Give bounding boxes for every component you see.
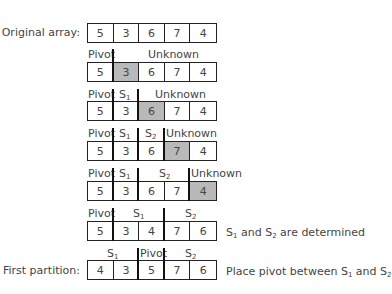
array-row-step-4: 5 3 6 7 4 — [87, 181, 217, 201]
region-label-s2: S2 — [145, 127, 156, 141]
array-cell: 5 — [88, 182, 114, 200]
array-cell: 4 — [190, 102, 216, 120]
array-cell: 7 — [165, 222, 191, 240]
array-cell: 5 — [88, 24, 114, 42]
array-row-step-3: 5 3 6 7 4 — [87, 141, 217, 161]
region-label-s1: S1 — [133, 207, 144, 221]
region-separator — [188, 168, 190, 201]
region-label-pivot: Pivot — [88, 127, 115, 140]
array-cell-current: 4 — [190, 182, 216, 200]
array-cell: 4 — [139, 222, 165, 240]
array-cell-current: 3 — [114, 63, 140, 81]
region-label-s1: S1 — [107, 247, 118, 261]
region-label-pivot: Pivot — [88, 167, 115, 180]
array-cell: 3 — [114, 182, 140, 200]
step-note-determined: S1 and S2 are determined — [226, 226, 365, 240]
region-label-unknown: Unknown — [148, 48, 199, 61]
region-separator — [163, 128, 165, 161]
region-separator — [137, 89, 139, 121]
region-label-s2: S2 — [185, 247, 196, 261]
region-label-pivot: Pivot — [88, 207, 115, 220]
array-cell: 3 — [114, 222, 140, 240]
array-cell: 7 — [165, 102, 191, 120]
region-separator — [163, 248, 165, 280]
array-row-step-5: 5 3 4 7 6 — [87, 221, 217, 241]
array-cell: 5 — [88, 142, 114, 160]
region-separator — [112, 208, 114, 241]
array-row-original: 5 3 6 7 4 — [87, 23, 217, 43]
original-array-label: Original array: — [0, 26, 80, 39]
region-label-s1: S1 — [119, 88, 130, 102]
array-cell: 6 — [139, 63, 165, 81]
region-separator — [112, 128, 114, 161]
array-cell: 7 — [165, 24, 191, 42]
step-note-place-pivot: Place pivot between S1 and S2 — [226, 265, 392, 279]
array-cell: 7 — [165, 63, 191, 81]
array-cell: 3 — [114, 24, 140, 42]
array-row-step-2: 5 3 6 7 4 — [87, 101, 217, 121]
region-label-unknown: Unknown — [191, 167, 242, 180]
region-separator — [163, 208, 165, 241]
region-separator — [137, 248, 139, 280]
array-cell-current: 6 — [139, 102, 165, 120]
array-cell: 6 — [190, 222, 216, 240]
array-cell: 6 — [139, 142, 165, 160]
array-cell: 5 — [139, 261, 165, 279]
array-cell: 6 — [190, 261, 216, 279]
region-label-s1: S1 — [119, 127, 130, 141]
array-cell: 4 — [190, 24, 216, 42]
array-cell: 3 — [114, 102, 140, 120]
first-partition-label: First partition: — [0, 264, 80, 277]
array-cell-current: 7 — [165, 142, 191, 160]
region-separator — [137, 168, 139, 201]
region-label-s2: S2 — [185, 207, 196, 221]
region-separator — [112, 89, 114, 121]
array-cell: 6 — [139, 182, 165, 200]
region-label-s2: S2 — [159, 167, 170, 181]
array-cell: 5 — [88, 222, 114, 240]
region-label-unknown: Unknown — [155, 88, 206, 101]
array-cell: 3 — [114, 142, 140, 160]
array-cell: 5 — [88, 102, 114, 120]
array-cell: 4 — [88, 261, 114, 279]
array-row-step-1: 5 3 6 7 4 — [87, 62, 217, 82]
array-row-first-partition: 4 3 5 7 6 — [87, 260, 217, 280]
array-cell: 7 — [165, 261, 191, 279]
array-cell: 5 — [88, 63, 114, 81]
array-cell: 4 — [190, 63, 216, 81]
array-cell: 6 — [139, 24, 165, 42]
array-cell: 4 — [190, 142, 216, 160]
region-label-pivot: Pivot — [88, 88, 115, 101]
region-separator — [112, 168, 114, 201]
region-label-unknown: Unknown — [166, 127, 217, 140]
region-label-s1: S1 — [119, 167, 130, 181]
region-label-pivot: Pivot — [88, 48, 115, 61]
array-cell: 3 — [114, 261, 140, 279]
region-separator — [137, 128, 139, 161]
region-separator — [112, 49, 114, 82]
array-cell: 7 — [165, 182, 191, 200]
